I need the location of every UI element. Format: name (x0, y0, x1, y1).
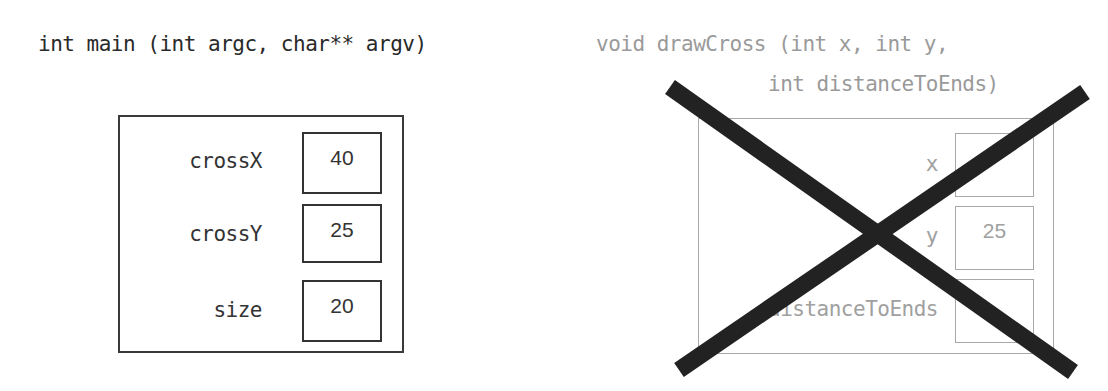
var-value-distanceToEnds (955, 279, 1034, 343)
var-value-x (955, 133, 1034, 197)
var-label-size: size (130, 298, 262, 322)
var-label-crossX: crossX (130, 149, 262, 173)
var-label-y: y (800, 224, 938, 248)
var-value-crossY: 25 (302, 204, 382, 263)
var-value-size: 20 (302, 280, 382, 342)
drawcross-signature-line2: int distanceToEnds) (768, 72, 999, 96)
var-label-distanceToEnds: distanceToEnds (700, 297, 938, 321)
main-signature: int main (int argc, char** argv) (38, 32, 427, 56)
drawcross-signature-line1: void drawCross (int x, int y, (596, 32, 948, 56)
var-label-x: x (800, 152, 938, 176)
var-label-crossY: crossY (130, 222, 262, 246)
var-value-crossX: 40 (302, 132, 382, 194)
var-value-y: 25 (955, 206, 1034, 270)
